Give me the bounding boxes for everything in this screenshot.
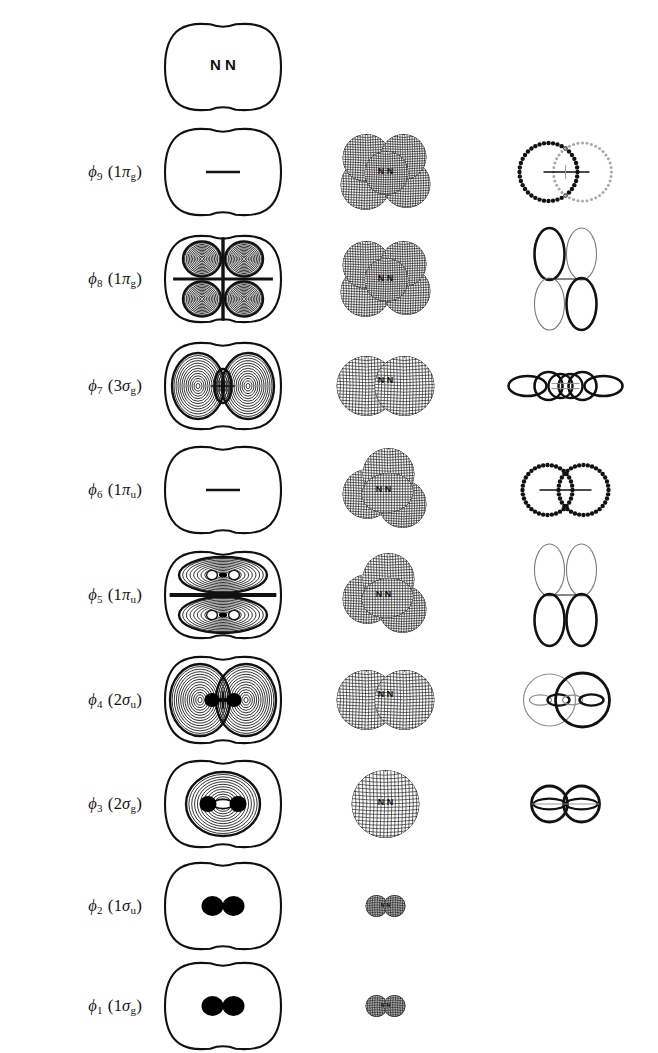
lobe-core [207,570,218,579]
dot [526,149,530,153]
contour-line [200,258,203,261]
dot [573,511,577,515]
bond-bridge [221,904,226,907]
dot [553,162,556,165]
contour-line [188,373,208,398]
row-phi1: ϕ1(1σg)N N [0,956,658,1053]
dot [606,483,610,487]
p-orbital-lobe [567,544,597,596]
dot [554,511,558,515]
mesh-surface: N N [298,334,473,438]
mesh-surface: N N [298,854,473,958]
contour-line [246,383,250,388]
dot [545,463,549,467]
dot [605,479,609,483]
schematic-overlap [473,227,658,331]
dot [609,162,612,165]
schematic-overlap [473,120,658,224]
dot [581,200,584,203]
dot [569,509,573,513]
dot [541,512,545,516]
dot [603,500,607,504]
orbital-label-cell: ϕ9(1πg) [0,122,148,222]
dot [517,170,521,174]
dot [590,511,594,515]
contour-line [227,243,262,275]
contour-line [242,258,245,261]
contour-line [188,286,217,312]
dot [581,513,585,517]
contour-line [189,247,214,270]
dot [537,197,541,201]
orbital-label-cell: ϕ1(1σg) [0,956,148,1053]
dot [522,479,526,483]
dot [565,469,569,473]
dot [519,179,523,183]
lobe-contours [225,282,263,317]
contour-line [185,283,220,315]
cropped-caption-fragment [0,0,658,9]
dot [555,157,558,160]
contour-line [196,383,200,388]
orbital-label: ϕ3(2σg) [88,794,142,814]
row-phi6: ϕ6(1πu)N N [0,440,658,540]
mesh-surface: N N [298,752,473,856]
schematic-cell [473,15,658,119]
dot [546,141,550,145]
mesh-cell: N N [298,954,473,1053]
contour-plot: N N [148,15,298,119]
dot [521,483,525,487]
contour-line [199,296,205,302]
dot [586,463,590,467]
contour-line [225,242,263,277]
dot [518,174,522,178]
row-nuclei: N N [0,16,658,118]
dot [572,183,576,187]
schematic-cell [473,954,658,1053]
dot [520,488,524,492]
dot [558,509,562,513]
orbital-label-cell: ϕ7(3σg) [0,334,148,438]
dot [590,464,594,468]
contour-line [194,381,202,391]
contour-cell [148,334,298,438]
mesh-cell: N N [298,120,473,224]
contour-plot [148,648,298,752]
schematic-overlap [473,648,658,752]
dot [567,500,571,504]
nuclei-label: N N [210,56,236,73]
dot [568,196,571,199]
dot [529,193,533,197]
orbital-label: ϕ6(1πu) [88,480,142,500]
contour-cell: N N [148,15,298,119]
contour-line [231,247,256,270]
nuclei-label: N N [378,166,394,176]
dot [555,197,559,201]
dot [554,464,558,468]
p-orbital-lobe [567,278,597,330]
contour-cell [148,854,298,958]
dot [558,479,562,483]
contour-cell [148,227,298,331]
contour-line [188,246,217,272]
outer-lobe-right [585,376,623,396]
dot [594,466,598,470]
schematic-overlap [473,854,658,958]
dot [607,157,610,160]
row-phi3: ϕ3(2σg)N N [0,752,658,856]
mesh-cell: N N [298,334,473,438]
contour-line [185,243,220,275]
orbital-label-cell [0,16,148,118]
core-lobe [202,996,224,1016]
mesh-cell: N N [298,648,473,752]
dot [564,194,567,197]
dot [573,464,577,468]
dot [552,166,555,169]
lobe-contours [225,242,263,277]
dot [526,504,530,508]
orbital-label: ϕ1(1σg) [88,996,142,1016]
core-lobe [223,896,245,916]
dot [541,463,545,467]
dot [568,145,571,148]
lobe-core [207,610,218,619]
